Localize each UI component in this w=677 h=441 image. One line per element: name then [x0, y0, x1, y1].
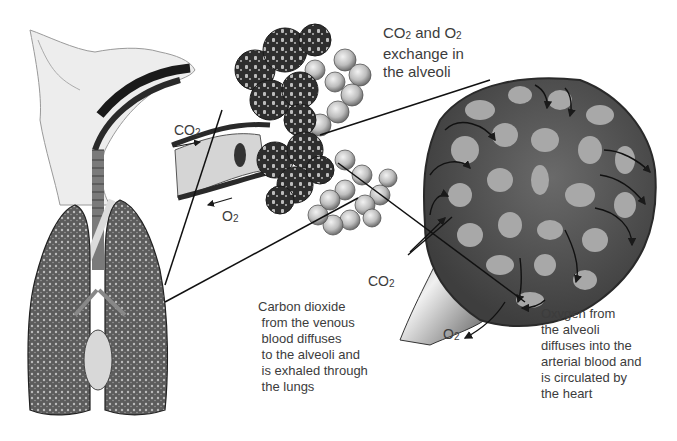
dog-head	[30, 30, 195, 205]
caption-line: the heart	[541, 386, 641, 402]
o2-label-bronchus: O2	[222, 208, 238, 224]
caption-line: the lungs	[258, 379, 368, 395]
caption-line: Oxygen from	[541, 306, 641, 322]
caption-line: from the venous	[258, 315, 368, 331]
exchange-title-label: CO2 and O2exchange inthe alveoli	[383, 24, 464, 81]
caption-line: Carbon dioxide	[258, 299, 368, 315]
chem-sub: 2	[454, 331, 460, 342]
caption-line: is circulated by	[541, 370, 641, 386]
caption-carbon-dioxide: Carbon dioxide from the venous blood dif…	[258, 299, 368, 395]
chem-sub: 2	[389, 278, 395, 289]
caption-line: to the alveoli and	[258, 347, 368, 363]
chem-sub: 2	[195, 127, 201, 138]
chem-sub: 2	[233, 213, 239, 224]
chem-base: CO	[174, 122, 195, 138]
alveoli-cluster	[235, 24, 397, 235]
title-subscript: 2	[456, 30, 462, 41]
o2-label-capillary: O2	[443, 326, 459, 342]
title-line-2: exchange in	[383, 45, 464, 62]
caption-oxygen: Oxygen fromthe alveolidiffuses into thea…	[541, 306, 641, 402]
title-line-3: the alveoli	[383, 63, 451, 80]
magnified-alveolus	[400, 78, 656, 345]
caption-line: diffuses into the	[541, 338, 641, 354]
chem-base: O	[222, 208, 233, 224]
chem-base: O	[443, 326, 454, 342]
caption-line: is exhaled through	[258, 363, 368, 379]
co2-label-bronchus: CO2	[174, 122, 201, 138]
caption-line: arterial blood and	[541, 354, 641, 370]
caption-line: blood diffuses	[258, 331, 368, 347]
chem-base: CO	[368, 273, 389, 289]
caption-line: the alveoli	[541, 322, 641, 338]
co2-label-capillary: CO2	[368, 273, 395, 289]
diagram-canvas: CO2 and O2exchange inthe alveoli CO2 O2 …	[0, 0, 677, 441]
title-text-co: CO	[383, 24, 406, 41]
title-text-and-o: and O	[411, 24, 456, 41]
